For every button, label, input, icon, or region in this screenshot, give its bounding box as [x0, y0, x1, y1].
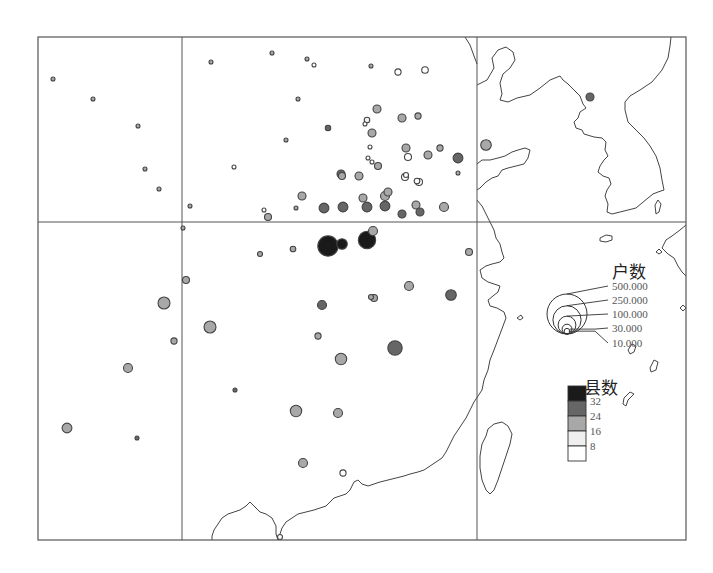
prefecture-point: [62, 423, 72, 433]
prefecture-point: [405, 282, 414, 291]
prefecture-point: [395, 69, 401, 75]
prefecture-point: [375, 163, 382, 170]
size-legend-leader: [567, 314, 608, 316]
prefecture-point: [290, 246, 296, 252]
coastline-shandong: [477, 148, 530, 190]
prefecture-point: [284, 138, 288, 142]
size-legend-ring: [553, 306, 581, 334]
prefecture-point: [270, 51, 274, 55]
prefecture-point: [158, 297, 170, 309]
prefecture-point: [424, 151, 432, 159]
prefecture-point: [373, 105, 381, 113]
coastline-leizhou: [212, 502, 278, 540]
prefecture-point: [453, 153, 463, 163]
color-legend-label: 8: [590, 440, 596, 452]
prefecture-point: [334, 409, 343, 418]
prefecture-point: [437, 145, 443, 151]
prefecture-point: [157, 187, 161, 191]
historical-household-map: 户数 500.000250.000100.00030.00010.000 县数 …: [0, 0, 713, 573]
coastline-china-east: [278, 37, 506, 540]
color-legend-label: 16: [590, 425, 602, 437]
prefecture-point: [369, 227, 378, 236]
prefecture-point: [440, 203, 449, 212]
prefecture-point: [312, 63, 316, 67]
prefecture-point: [456, 171, 460, 175]
prefecture-point: [402, 144, 410, 152]
color-legend-label: 32: [590, 395, 601, 407]
size-legend-leader: [567, 286, 608, 294]
prefecture-point: [294, 206, 298, 210]
prefecture-point: [258, 252, 263, 257]
prefecture-point: [340, 470, 346, 476]
island-small-4: [517, 315, 523, 320]
coastline-korea: [598, 37, 671, 214]
prefecture-point: [369, 64, 373, 68]
island-small-7: [623, 392, 634, 406]
color-legend-swatch: [568, 446, 586, 461]
prefecture-point: [405, 154, 412, 161]
island-taiwan: [480, 422, 512, 494]
prefecture-point: [369, 295, 374, 300]
prefecture-point: [380, 201, 390, 211]
prefecture-point: [188, 204, 192, 208]
prefecture-point: [398, 210, 406, 218]
prefecture-point: [355, 172, 363, 180]
prefecture-point: [319, 203, 329, 213]
size-legend-title: 户数: [612, 262, 646, 282]
prefecture-point: [143, 167, 147, 171]
prefecture-point: [124, 364, 133, 373]
prefecture-point: [315, 333, 321, 339]
prefecture-point: [368, 129, 376, 137]
color-legend-swatch: [568, 416, 586, 431]
prefecture-point: [335, 353, 346, 364]
prefecture-point: [183, 277, 190, 284]
prefecture-point: [466, 249, 473, 256]
color-legend-swatch: [568, 401, 586, 416]
prefecture-point: [318, 236, 338, 256]
prefecture-point: [136, 124, 140, 128]
size-legend-label: 30.000: [612, 322, 643, 334]
island-small-1: [655, 200, 661, 214]
island-jeju: [600, 235, 612, 242]
prefecture-point: [265, 214, 272, 221]
map-frame: [38, 37, 686, 540]
prefecture-point: [481, 140, 492, 151]
prefecture-point: [415, 113, 421, 119]
prefecture-point: [384, 188, 392, 196]
color-legend-swatch: [568, 431, 586, 446]
size-legend-label: 100.000: [612, 308, 648, 320]
prefecture-point: [278, 535, 283, 540]
prefecture-point: [305, 57, 309, 61]
prefecture-point: [363, 122, 367, 126]
island-small-3: [650, 360, 658, 372]
prefecture-point: [91, 97, 95, 101]
prefecture-point: [404, 173, 409, 178]
prefecture-point: [51, 77, 55, 81]
prefecture-point: [370, 160, 374, 164]
prefecture-point: [422, 67, 429, 74]
prefecture-point: [368, 145, 372, 149]
prefecture-point: [362, 202, 372, 212]
size-legend-label: 500.000: [612, 280, 648, 292]
prefecture-point: [366, 156, 370, 160]
prefecture-point: [414, 178, 420, 184]
prefecture-point: [232, 165, 236, 169]
prefecture-point: [446, 290, 457, 301]
prefecture-point: [339, 173, 346, 180]
prefecture-point: [290, 405, 301, 416]
prefecture-point: [325, 125, 330, 130]
prefecture-point: [171, 338, 177, 344]
island-small-6: [656, 249, 662, 254]
coastline-kyushu: [662, 225, 686, 276]
prefecture-point: [181, 226, 185, 230]
size-legend-label: 10.000: [612, 337, 643, 349]
size-legend-label: 250.000: [612, 294, 648, 306]
color-legend-label: 24: [590, 410, 602, 422]
prefecture-point: [318, 301, 327, 310]
prefecture-point: [233, 388, 237, 392]
prefecture-point: [204, 321, 216, 333]
color-legend-swatch: [568, 386, 586, 401]
size-legend-leader: [567, 300, 608, 306]
prefecture-point: [388, 341, 402, 355]
island-small-5: [680, 305, 686, 311]
